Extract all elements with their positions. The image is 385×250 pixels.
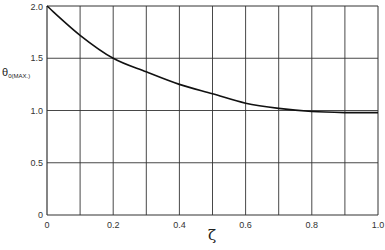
y-tick-label: 2.0 [30,2,43,12]
x-tick-label: 0 [44,220,49,230]
y-tick-label: 1.0 [30,106,43,116]
x-tick-label: 1.0 [372,220,385,230]
x-axis-label: ζ [208,226,216,244]
y-tick-label: 1.5 [30,53,43,63]
chart: 00.20.40.60.81.000.51.01.52.0 θ0(MAX.) ζ [0,0,385,250]
x-tick-label: 0.2 [107,220,120,230]
x-tick-label: 0.4 [173,220,186,230]
y-tick-label: 0.5 [30,158,43,168]
y-axis-label: θ0(MAX.) [2,66,30,79]
x-tick-label: 0.6 [239,220,252,230]
tick-labels: 00.20.40.60.81.000.51.01.52.0 [30,2,384,230]
x-tick-label: 0.8 [306,220,319,230]
y-tick-label: 0 [38,210,43,220]
grid [47,6,378,215]
